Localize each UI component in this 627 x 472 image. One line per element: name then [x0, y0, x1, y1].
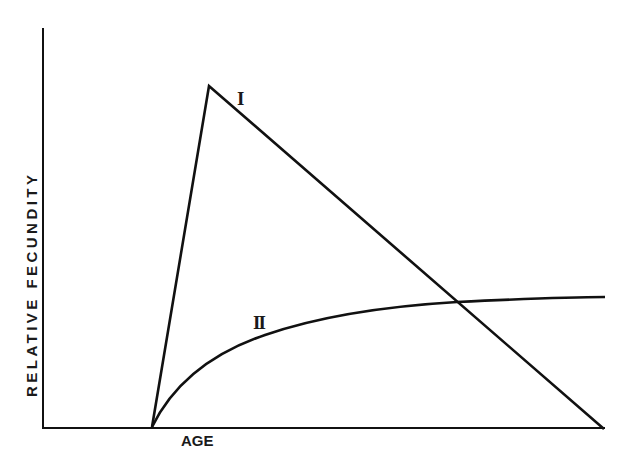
- series-ii-curve: [152, 297, 605, 427]
- y-axis-label: RELATIVE FECUNDITY: [23, 175, 40, 397]
- x-axis-label: AGE: [181, 432, 214, 449]
- fecundity-chart: I II AGE RELATIVE FECUNDITY: [0, 0, 627, 472]
- series-i-line: [152, 86, 604, 429]
- series-ii-label: II: [253, 312, 265, 333]
- axes: [42, 28, 605, 428]
- series-i-label: I: [237, 88, 244, 109]
